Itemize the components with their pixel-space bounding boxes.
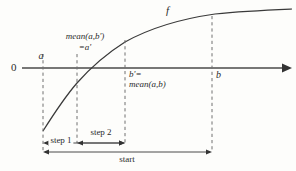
- point-label-b-prime-line2: mean(a,b): [129, 80, 166, 89]
- function-curve-f: [43, 9, 292, 131]
- interval-label-step-2: step 2: [90, 128, 111, 137]
- step2-arrowhead-right: [119, 141, 125, 146]
- point-label-b: b: [216, 70, 221, 81]
- figure-container: 0 f a mean(a,b') =a' b'= mean(a,b) b ste…: [0, 0, 296, 171]
- point-label-a-prime-line2: =a': [79, 43, 92, 52]
- curve-label-f: f: [166, 5, 169, 17]
- x-axis-arrowhead: [282, 64, 292, 73]
- start-arrowhead-left: [43, 150, 49, 155]
- interval-label-start: start: [119, 155, 135, 164]
- point-label-a-prime-line1: mean(a,b'): [66, 32, 105, 41]
- interval-label-step-1: step 1: [48, 136, 73, 145]
- point-label-a: a: [39, 51, 44, 62]
- start-arrowhead-right: [206, 150, 212, 155]
- step2-arrowhead-left: [77, 141, 83, 146]
- axis-origin-label: 0: [11, 62, 17, 74]
